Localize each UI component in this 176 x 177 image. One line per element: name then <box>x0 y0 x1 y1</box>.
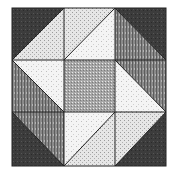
quilt-block <box>0 0 176 177</box>
cell-center <box>64 60 115 112</box>
